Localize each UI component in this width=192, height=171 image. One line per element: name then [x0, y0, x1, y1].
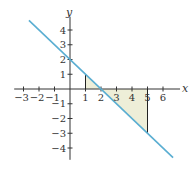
x-tick-label: −3: [14, 92, 29, 103]
axis-labels: −3−2−11234564321−1−2−3−4xy: [14, 6, 189, 154]
y-tick-label: −2: [51, 113, 66, 124]
y-tick-label: −3: [51, 128, 66, 139]
y-tick-label: 4: [60, 25, 66, 36]
y-tick-label: 3: [60, 39, 66, 50]
x-tick-label: −2: [30, 92, 45, 103]
y-tick-label: −4: [51, 143, 66, 154]
y-axis-label: y: [65, 6, 73, 19]
x-tick-label: 1: [82, 92, 88, 103]
x-tick-label: 5: [144, 92, 150, 103]
y-tick-label: −1: [51, 98, 66, 109]
x-tick-label: 3: [113, 92, 119, 103]
x-tick-label: 4: [129, 92, 135, 103]
x-tick-label: 6: [160, 92, 166, 103]
y-tick-label: 1: [60, 69, 66, 80]
y-tick-label: 2: [60, 54, 66, 65]
x-tick-label: 2: [98, 92, 104, 103]
x-axis-label: x: [182, 82, 189, 95]
coordinate-plane-chart: −3−2−11234564321−1−2−3−4xy: [0, 0, 192, 171]
